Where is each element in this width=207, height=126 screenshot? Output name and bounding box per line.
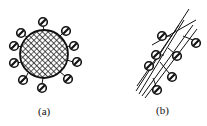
figure-canvas: [0, 0, 207, 126]
fibril-bundle: [136, 9, 197, 98]
panel-b: [136, 9, 200, 98]
panel-b-label: (b): [156, 104, 169, 116]
panel-a: [10, 18, 82, 93]
panel-a-label: (a): [38, 105, 50, 117]
core-particle: [20, 30, 68, 78]
attached-spheres-b: [145, 32, 201, 95]
